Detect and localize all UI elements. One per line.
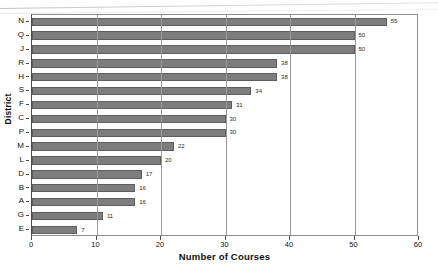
bar-value-label-j: 50 (359, 44, 366, 54)
y-tick-label-l: L (20, 153, 24, 167)
y-tick-label-a: A (19, 194, 24, 208)
y-tick-mark (26, 174, 29, 175)
bar-m (32, 142, 174, 150)
bar-q (32, 31, 355, 39)
bar-h (32, 73, 277, 81)
x-tick-label-60: 60 (414, 240, 422, 249)
y-tick-mark (26, 63, 29, 64)
gridline-10 (97, 15, 98, 235)
y-tick-label-f: F (19, 97, 24, 111)
bar-row: 38 (32, 71, 417, 85)
x-tick-label-50: 50 (349, 240, 357, 249)
gridline-30 (226, 15, 227, 235)
x-tick-label-0: 0 (29, 240, 33, 249)
bar-value-label-d: 17 (146, 169, 153, 179)
y-tick-mark (26, 21, 29, 22)
bar-p (32, 129, 226, 137)
y-tick-label-e: E (19, 222, 24, 236)
bar-rows: 5550503838343130302220171616117 (32, 15, 417, 235)
y-tick-mark (26, 104, 29, 105)
bar-row: 11 (32, 209, 417, 223)
y-tick-label-g: G (18, 208, 24, 222)
x-tick-label-10: 10 (91, 240, 99, 249)
bar-value-label-q: 50 (359, 30, 366, 40)
bar-row: 31 (32, 98, 417, 112)
x-tick-label-40: 40 (285, 240, 293, 249)
y-tick-mark (26, 90, 29, 91)
y-tick-label-d: D (18, 167, 24, 181)
y-tick-mark (26, 160, 29, 161)
y-tick-label-h: H (18, 70, 24, 84)
bar-value-label-s: 34 (255, 86, 262, 96)
bar-value-label-n: 55 (391, 16, 398, 26)
scan-artifact-line (0, 2, 438, 9)
bar-b (32, 184, 135, 192)
bar-j (32, 45, 355, 53)
bar-n (32, 18, 387, 26)
y-tick-mark (26, 132, 29, 133)
y-tick-label-p: P (19, 125, 24, 139)
bar-e (32, 226, 77, 234)
bar-row: 55 (32, 15, 417, 29)
y-axis-tick-labels: NQJRHSFCPMLDBAGE (0, 14, 29, 236)
gridline-50 (355, 15, 356, 235)
bar-value-label-r: 38 (281, 58, 288, 68)
y-tick-mark (26, 187, 29, 188)
y-tick-label-q: Q (18, 28, 24, 42)
bar-value-label-c: 30 (230, 114, 237, 124)
y-tick-mark (26, 229, 29, 230)
bar-value-label-g: 11 (107, 211, 113, 221)
bar-row: 17 (32, 168, 417, 182)
y-tick-label-m: M (17, 139, 24, 153)
y-tick-label-c: C (18, 111, 24, 125)
x-axis-title: Number of Courses (31, 251, 418, 262)
gridline-40 (290, 15, 291, 235)
bar-row: 22 (32, 140, 417, 154)
bar-f (32, 101, 232, 109)
bar-value-label-a: 16 (139, 197, 146, 207)
bar-row: 50 (32, 43, 417, 57)
y-tick-label-b: B (19, 181, 24, 195)
y-tick-mark (26, 49, 29, 50)
bar-row: 7 (32, 223, 417, 237)
bar-row: 30 (32, 126, 417, 140)
bar-value-label-e: 7 (81, 225, 84, 235)
bar-value-label-l: 20 (165, 155, 172, 165)
y-tick-mark (26, 76, 29, 77)
gridline-20 (161, 15, 162, 235)
bar-value-label-p: 30 (230, 127, 237, 137)
bar-value-label-b: 16 (139, 183, 146, 193)
y-tick-mark (26, 35, 29, 36)
bar-c (32, 115, 226, 123)
bar-row: 30 (32, 112, 417, 126)
y-tick-mark (26, 215, 29, 216)
x-tick-label-30: 30 (220, 240, 228, 249)
bar-r (32, 59, 277, 67)
y-tick-mark (26, 146, 29, 147)
bar-d (32, 170, 142, 178)
bar-row: 20 (32, 154, 417, 168)
bar-value-label-m: 22 (178, 141, 185, 151)
bar-value-label-h: 38 (281, 72, 288, 82)
bar-value-label-f: 31 (236, 100, 243, 110)
bar-g (32, 212, 103, 220)
y-tick-label-r: R (18, 56, 24, 70)
bar-a (32, 198, 135, 206)
y-tick-mark (26, 118, 29, 119)
bar-row: 50 (32, 29, 417, 43)
y-tick-label-s: S (19, 83, 24, 97)
bar-row: 34 (32, 84, 417, 98)
bar-row: 38 (32, 57, 417, 71)
x-tick-label-20: 20 (156, 240, 164, 249)
bar-s (32, 87, 251, 95)
y-tick-label-j: J (20, 42, 24, 56)
y-tick-mark (26, 201, 29, 202)
plot-area: 5550503838343130302220171616117 (31, 14, 418, 236)
bar-row: 16 (32, 182, 417, 196)
y-tick-label-n: N (18, 14, 24, 28)
bar-row: 16 (32, 195, 417, 209)
